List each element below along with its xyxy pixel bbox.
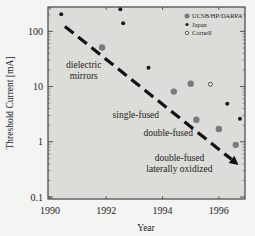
annotation-line: mirrors: [70, 71, 98, 81]
annotation-label: single-fused: [113, 110, 160, 120]
data-point-ucsb-hp-darpa: [233, 142, 239, 148]
y-tick-label: 10: [33, 81, 43, 92]
legend-marker: [185, 14, 190, 19]
data-point-ucsb-hp-darpa: [216, 126, 222, 132]
data-point-ucsb-hp-darpa: [171, 88, 177, 94]
data-point-japan: [225, 102, 229, 106]
x-tick-label: 1996: [209, 205, 229, 216]
annotation-line: dielectric: [66, 60, 101, 70]
x-axis-label: Year: [137, 223, 155, 233]
annotation-label: double-fused: [143, 128, 193, 138]
legend-label: UCSB/HP/DARPA: [192, 12, 243, 19]
annotation-line: double-fused: [155, 153, 205, 163]
y-tick-label: 1: [38, 136, 43, 147]
y-tick-label: 0.1: [31, 192, 44, 203]
data-point-japan: [121, 21, 125, 25]
threshold-current-chart: 1990199219941996 0.1110100 dielectricmir…: [0, 0, 255, 236]
data-point-japan: [118, 7, 122, 11]
data-point-japan: [147, 66, 151, 70]
data-point-japan: [59, 12, 63, 16]
annotation-line: single-fused: [113, 110, 160, 120]
legend-marker: [185, 31, 188, 34]
legend-marker: [185, 23, 188, 26]
x-tick-label: 1994: [153, 205, 173, 216]
data-point-ucsb-hp-darpa: [193, 117, 199, 123]
annotation-label: dielectricmirrors: [66, 60, 101, 81]
annotation-label: double-fusedlaterally oxidized: [146, 153, 212, 174]
annotation-line: laterally oxidized: [146, 164, 212, 174]
x-tick-label: 1990: [40, 205, 60, 216]
annotation-line: double-fused: [143, 128, 193, 138]
data-point-japan: [238, 117, 242, 121]
data-point-ucsb-hp-darpa: [99, 44, 105, 50]
legend-label: Japan: [192, 21, 208, 28]
x-tick-label: 1992: [96, 205, 116, 216]
y-axis-label: Threshold Current [mA]: [5, 57, 15, 150]
y-tick-label: 100: [28, 26, 43, 37]
data-point-ucsb-hp-darpa: [188, 80, 194, 86]
legend-label: Cornell: [192, 29, 212, 36]
data-point-cornell: [208, 82, 212, 86]
